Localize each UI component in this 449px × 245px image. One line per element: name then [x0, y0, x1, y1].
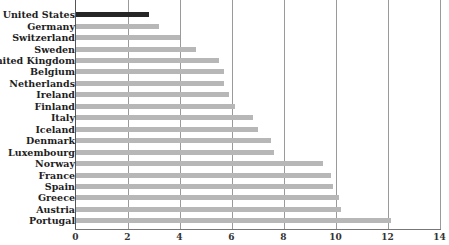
bar — [76, 104, 235, 109]
x-tick-label: 0 — [72, 232, 78, 242]
bar — [76, 207, 341, 212]
bar — [76, 138, 271, 143]
x-tick-label: 2 — [124, 232, 130, 242]
x-tick-label: 8 — [280, 232, 286, 242]
category-label: Netherlands — [9, 78, 75, 89]
category-label: Spain — [45, 181, 75, 192]
bar — [76, 115, 253, 120]
bar — [76, 150, 274, 155]
category-label: Belgium — [30, 66, 75, 77]
gridline — [388, 0, 389, 230]
category-label: Germany — [27, 21, 75, 32]
x-tick-label: 10 — [329, 232, 342, 242]
x-tick-label: 4 — [176, 232, 182, 242]
bar — [76, 12, 149, 17]
x-tick-label: 6 — [228, 232, 234, 242]
bar — [76, 69, 224, 74]
category-label: Greece — [38, 192, 75, 203]
bar — [76, 24, 159, 29]
category-label: Finland — [34, 101, 75, 112]
bar — [76, 58, 219, 63]
horizontal-bar-chart: United StatesGermanySwitzerlandSwedenUni… — [0, 0, 449, 245]
category-label: Luxembourg — [8, 147, 75, 158]
category-label: Norway — [35, 158, 75, 169]
category-label: Italy — [51, 112, 75, 123]
x-tick-label: 14 — [433, 232, 446, 242]
bar — [76, 35, 180, 40]
category-label: United Kingdom — [0, 55, 75, 66]
bar — [76, 184, 333, 189]
bar — [76, 218, 391, 223]
category-label: Sweden — [34, 44, 75, 55]
category-label: Switzerland — [12, 32, 75, 43]
bar — [76, 47, 196, 52]
category-label: Denmark — [26, 135, 75, 146]
category-label: United States — [3, 9, 75, 20]
bar — [76, 81, 224, 86]
gridline — [440, 0, 441, 230]
x-tick-label: 12 — [381, 232, 394, 242]
x-axis-line — [75, 229, 441, 230]
bar — [76, 161, 323, 166]
bar — [76, 173, 331, 178]
category-label: Ireland — [36, 89, 75, 100]
category-label: Iceland — [35, 124, 75, 135]
bar — [76, 127, 258, 132]
bar — [76, 195, 339, 200]
category-label: France — [39, 170, 75, 181]
category-label: Austria — [36, 204, 75, 215]
bar — [76, 92, 229, 97]
category-label: Portugal — [29, 215, 75, 226]
